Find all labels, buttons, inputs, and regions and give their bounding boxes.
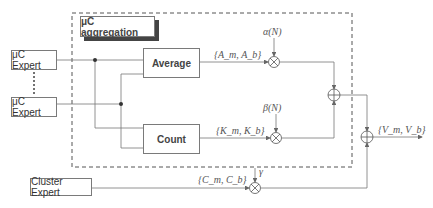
uc-expert-1: μC Expert <box>11 50 57 70</box>
count-block: Count <box>143 124 200 154</box>
multiply-node-alpha <box>269 57 280 68</box>
average-block: Average <box>143 48 200 78</box>
aggregation-title: μC aggregation <box>80 16 155 37</box>
uc-expert-2: μC Expert <box>11 97 57 117</box>
sum-node-final <box>361 131 373 143</box>
beta-weight-label: β(N) <box>263 102 281 113</box>
multiply-node-beta <box>271 133 282 144</box>
alpha-weight-label: α(N) <box>263 26 282 37</box>
final-output-label: {V_m, V_b} <box>378 124 425 135</box>
average-output-label: {A_m, A_b} <box>214 49 261 60</box>
cluster-expert: Cluster Expert <box>30 178 92 196</box>
junction-dot <box>119 102 123 106</box>
sum-node-inner <box>328 89 340 101</box>
multiply-node-gamma <box>250 183 261 194</box>
count-output-label: {K_m, K_b} <box>216 125 265 136</box>
gamma-weight-label: γ <box>259 166 263 177</box>
cluster-output-label: {C_m, C_b} <box>198 174 247 185</box>
junction-dot <box>93 58 97 62</box>
